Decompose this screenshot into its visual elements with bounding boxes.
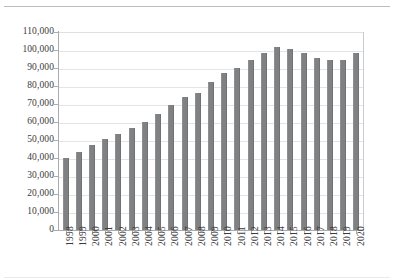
plot-right-border	[363, 32, 364, 230]
bar-slot	[165, 32, 178, 230]
y-axis-tick-label: 60,000	[27, 117, 54, 127]
top-divider-rule	[4, 6, 390, 7]
bar[interactable]	[102, 139, 108, 230]
bar[interactable]	[129, 128, 135, 230]
bar[interactable]	[168, 105, 174, 230]
x-axis-tick-labels: 1998199920002001200220032004200520062007…	[59, 231, 363, 275]
bar[interactable]	[261, 53, 267, 230]
y-axis-tick-mark	[54, 104, 58, 105]
bar[interactable]	[221, 73, 227, 231]
bar-slot	[310, 32, 323, 230]
x-axis-tick-slot: 2019	[337, 231, 350, 275]
x-axis-tick-slot: 2013	[257, 231, 270, 275]
y-axis-tick-mark	[54, 158, 58, 159]
x-axis-tick-label: 2020	[356, 226, 366, 246]
bar[interactable]	[155, 114, 161, 230]
bar[interactable]	[340, 60, 346, 230]
bar[interactable]	[208, 82, 214, 231]
bar[interactable]	[327, 60, 333, 230]
bar-slot	[152, 32, 165, 230]
bar[interactable]	[353, 53, 359, 230]
x-axis-tick-slot: 1998	[59, 231, 72, 275]
bar[interactable]	[314, 58, 320, 230]
bar-slot	[204, 32, 217, 230]
bar-slot	[59, 32, 72, 230]
y-axis-tick-mark	[54, 140, 58, 141]
y-axis-tick-mark	[54, 212, 58, 213]
y-axis-tick-mark	[54, 194, 58, 195]
bar-series-group	[59, 32, 363, 230]
y-axis-tick-mark	[54, 230, 58, 231]
x-axis-tick-slot: 2003	[125, 231, 138, 275]
y-axis-tick-label: 30,000	[27, 171, 54, 181]
y-axis-tick-mark	[54, 86, 58, 87]
y-axis-tick-label: 100,000	[22, 45, 54, 55]
y-axis-tick-mark	[54, 176, 58, 177]
bar[interactable]	[76, 152, 82, 230]
y-axis-tick-mark	[54, 32, 58, 33]
y-axis-tick-label: 70,000	[27, 99, 54, 109]
x-axis-tick-slot: 2008	[191, 231, 204, 275]
x-axis-tick-slot: 2017	[310, 231, 323, 275]
y-axis-tick-label: 50,000	[27, 135, 54, 145]
bar[interactable]	[182, 97, 188, 230]
bar-slot	[178, 32, 191, 230]
bar-slot	[125, 32, 138, 230]
x-axis-tick-slot: 2004	[138, 231, 151, 275]
bar-slot	[244, 32, 257, 230]
bar[interactable]	[234, 68, 240, 230]
y-axis-tick-mark	[54, 122, 58, 123]
x-axis-tick-slot: 2015	[284, 231, 297, 275]
bar[interactable]	[89, 145, 95, 231]
x-axis-tick-slot: 2010	[218, 231, 231, 275]
screenshot-root: 110,000100,00090,00080,00070,00060,00050…	[0, 0, 394, 280]
bar[interactable]	[142, 122, 148, 230]
bar-slot	[257, 32, 270, 230]
bar[interactable]	[63, 158, 69, 230]
bar-slot	[138, 32, 151, 230]
x-axis-tick-slot: 2000	[85, 231, 98, 275]
x-axis-tick-slot: 2002	[112, 231, 125, 275]
x-axis-tick-slot: 2014	[271, 231, 284, 275]
bar-slot	[218, 32, 231, 230]
x-axis-tick-slot: 2007	[178, 231, 191, 275]
y-axis-tick-label: 10,000	[27, 207, 54, 217]
y-axis-tick-label: 80,000	[27, 81, 54, 91]
bar-slot	[323, 32, 336, 230]
x-axis-tick-slot: 2020	[350, 231, 363, 275]
bar[interactable]	[301, 53, 307, 230]
bar-slot	[85, 32, 98, 230]
bar[interactable]	[287, 49, 293, 230]
y-axis-tick-label: 20,000	[27, 189, 54, 199]
bar[interactable]	[115, 134, 121, 230]
bar-slot	[112, 32, 125, 230]
bar-slot	[350, 32, 363, 230]
y-axis-tick-mark	[54, 68, 58, 69]
y-axis-tick-label: 110,000	[23, 27, 54, 37]
bar-slot	[284, 32, 297, 230]
bar-slot	[271, 32, 284, 230]
y-axis-tick-labels: 110,000100,00090,00080,00070,00060,00050…	[0, 32, 54, 230]
x-axis-tick-slot: 2005	[152, 231, 165, 275]
y-axis-tick-label: 90,000	[27, 63, 54, 73]
bar-slot	[231, 32, 244, 230]
bar[interactable]	[195, 93, 201, 230]
bar-slot	[72, 32, 85, 230]
y-axis-tick-label: 40,000	[27, 153, 54, 163]
x-axis-tick-slot: 2006	[165, 231, 178, 275]
x-axis-tick-slot: 2012	[244, 231, 257, 275]
bottom-divider-rule	[4, 277, 390, 278]
y-axis-tick-mark	[54, 50, 58, 51]
bar-chart-figure: 110,000100,00090,00080,00070,00060,00050…	[0, 10, 394, 276]
x-axis-tick-slot: 1999	[72, 231, 85, 275]
x-axis-tick-slot: 2018	[323, 231, 336, 275]
bar-slot	[99, 32, 112, 230]
x-axis-tick-slot: 2011	[231, 231, 244, 275]
bar[interactable]	[274, 47, 280, 230]
bar-slot	[337, 32, 350, 230]
bar-slot	[297, 32, 310, 230]
x-axis-tick-slot: 2016	[297, 231, 310, 275]
bar[interactable]	[248, 60, 254, 230]
bar-slot	[191, 32, 204, 230]
x-axis-tick-slot: 2009	[204, 231, 217, 275]
